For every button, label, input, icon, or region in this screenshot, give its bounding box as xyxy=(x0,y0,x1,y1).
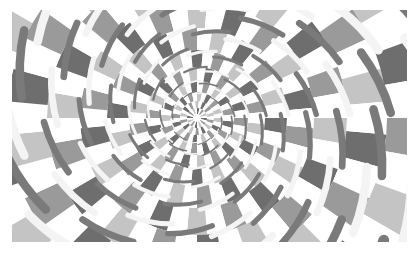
spiral-graphic xyxy=(12,10,407,242)
fraser-spiral-illusion-image: Fraser spiral illusion xyxy=(12,10,407,242)
